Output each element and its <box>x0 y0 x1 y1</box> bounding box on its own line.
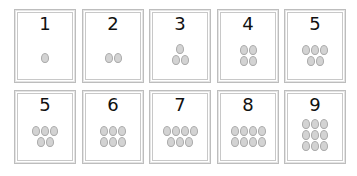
number-card-5: 5 <box>284 9 346 83</box>
egg-icon <box>311 45 319 55</box>
number-card-6: 6 <box>82 90 144 164</box>
egg-row <box>231 126 266 136</box>
egg-row <box>176 44 184 54</box>
egg-row <box>240 56 257 66</box>
egg-icon <box>311 130 319 140</box>
egg-icon <box>32 126 40 136</box>
egg-icon <box>240 137 248 147</box>
card-numeral: 9 <box>285 94 345 116</box>
egg-icon <box>41 53 49 63</box>
egg-icon <box>176 137 184 147</box>
egg-group <box>218 45 278 66</box>
egg-icon <box>249 56 257 66</box>
egg-icon <box>172 55 180 65</box>
egg-icon <box>50 126 58 136</box>
egg-group <box>15 126 75 147</box>
number-card-5b: 5 <box>14 90 76 164</box>
number-card-8: 8 <box>217 90 279 164</box>
egg-row <box>240 45 257 55</box>
egg-row <box>231 137 266 147</box>
egg-icon <box>100 126 108 136</box>
egg-icon <box>181 126 189 136</box>
egg-row <box>41 53 49 63</box>
egg-icon <box>109 137 117 147</box>
egg-icon <box>320 130 328 140</box>
card-numeral: 2 <box>83 13 143 35</box>
egg-group <box>150 44 210 65</box>
egg-icon <box>249 126 257 136</box>
egg-icon <box>320 45 328 55</box>
egg-icon <box>100 137 108 147</box>
egg-icon <box>172 126 180 136</box>
number-card-4: 4 <box>217 9 279 83</box>
egg-icon <box>302 45 310 55</box>
egg-row <box>307 56 324 66</box>
card-numeral: 5 <box>285 13 345 35</box>
egg-row <box>302 45 328 55</box>
card-numeral: 3 <box>150 13 210 35</box>
egg-icon <box>258 137 266 147</box>
card-numeral: 7 <box>150 94 210 116</box>
egg-icon <box>163 126 171 136</box>
number-card-3: 3 <box>149 9 211 83</box>
egg-row <box>163 126 198 136</box>
egg-icon <box>249 137 257 147</box>
number-card-1: 1 <box>14 9 76 83</box>
egg-icon <box>258 126 266 136</box>
egg-icon <box>41 126 49 136</box>
egg-icon <box>240 126 248 136</box>
egg-icon <box>240 56 248 66</box>
egg-icon <box>114 53 122 63</box>
number-card-2: 2 <box>82 9 144 83</box>
card-numeral: 4 <box>218 13 278 35</box>
egg-row <box>172 55 189 65</box>
egg-group <box>83 126 143 147</box>
egg-icon <box>46 137 54 147</box>
egg-icon <box>118 137 126 147</box>
number-card-7: 7 <box>149 90 211 164</box>
egg-icon <box>167 137 175 147</box>
egg-icon <box>231 126 239 136</box>
egg-icon <box>302 130 310 140</box>
egg-icon <box>109 126 117 136</box>
egg-icon <box>118 126 126 136</box>
egg-group <box>285 45 345 66</box>
egg-icon <box>311 141 319 151</box>
egg-icon <box>231 137 239 147</box>
egg-row <box>100 126 126 136</box>
egg-row <box>302 141 328 151</box>
egg-group <box>150 126 210 147</box>
egg-row <box>32 126 58 136</box>
egg-icon <box>181 55 189 65</box>
egg-icon <box>176 44 184 54</box>
egg-icon <box>185 137 193 147</box>
card-numeral: 8 <box>218 94 278 116</box>
egg-icon <box>307 56 315 66</box>
egg-icon <box>320 141 328 151</box>
egg-icon <box>190 126 198 136</box>
egg-group <box>285 119 345 151</box>
egg-icon <box>37 137 45 147</box>
egg-row <box>37 137 54 147</box>
egg-icon <box>320 119 328 129</box>
egg-group <box>218 126 278 147</box>
egg-icon <box>249 45 257 55</box>
egg-row <box>302 130 328 140</box>
egg-icon <box>316 56 324 66</box>
egg-group <box>83 53 143 63</box>
egg-row <box>302 119 328 129</box>
egg-row <box>167 137 193 147</box>
egg-icon <box>302 119 310 129</box>
card-numeral: 6 <box>83 94 143 116</box>
egg-icon <box>302 141 310 151</box>
number-card-9: 9 <box>284 90 346 164</box>
egg-icon <box>240 45 248 55</box>
egg-icon <box>311 119 319 129</box>
egg-row <box>105 53 122 63</box>
egg-group <box>15 53 75 63</box>
egg-icon <box>105 53 113 63</box>
card-numeral: 1 <box>15 13 75 35</box>
card-numeral: 5 <box>15 94 75 116</box>
egg-row <box>100 137 126 147</box>
